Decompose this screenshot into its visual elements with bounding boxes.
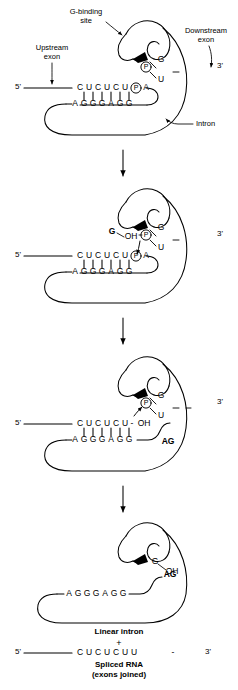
stage-1-base-0: C — [77, 83, 83, 92]
stage-3-base-3: U — [104, 419, 110, 428]
stage-3-pair-2: G — [90, 435, 97, 444]
stage-2-pair-1: G — [81, 267, 88, 276]
stage-1-pair-6: G — [126, 99, 133, 108]
linear-intron-label: Linear intron — [95, 628, 144, 637]
spliced-rna-label: Spliced RNA — [95, 661, 143, 670]
stage-1-base-3: U — [104, 83, 110, 92]
spliced-base-1: U — [86, 648, 92, 657]
spliced-five-prime: 5' — [15, 648, 21, 657]
stage-2-pair-2: G — [90, 267, 97, 276]
stage-3-terminal-oh: OH — [138, 419, 151, 428]
stage-1-base-5: U — [122, 83, 128, 92]
stage-3-pair-6: G — [126, 435, 133, 444]
stage-2-cofactor-g: G — [158, 223, 165, 232]
stage-1-five-prime: 5' — [15, 83, 21, 92]
stage-4-pair-3: G — [93, 589, 100, 598]
downstream-exon-leader — [209, 46, 212, 67]
stage-2-attacking-g: G — [109, 227, 116, 236]
stage-2-base-4: C — [113, 251, 119, 260]
stage-4-pair-5: G — [111, 589, 118, 598]
stage-3-pair-3: G — [99, 435, 106, 444]
spliced-base-2: C — [95, 648, 101, 657]
stage-2-five-prime: 5' — [15, 251, 21, 260]
stage-3-pair-0: A — [72, 435, 78, 444]
stage-4-pair-6: G — [120, 589, 127, 598]
stage-2-base-0: C — [77, 251, 83, 260]
stage-3-base-1: U — [86, 419, 92, 428]
stage-3-base-5: U — [122, 419, 128, 428]
stage-1-pair-4: A — [108, 99, 114, 108]
stage-4-pair-2: G — [84, 589, 91, 598]
downstream-exon-label: Downstream exon — [185, 27, 227, 44]
stage-3-base-2: C — [95, 419, 101, 428]
spliced-dash: - — [172, 648, 175, 657]
stage-3-five-prime: 5' — [15, 419, 21, 428]
stage-4-pair-4: A — [102, 589, 108, 598]
stage-2-base-2: C — [95, 251, 101, 260]
spliced-base-5: U — [122, 648, 128, 657]
stage-1-cofactor-u: U — [158, 75, 164, 84]
g-binding-site-label: G-binding site — [70, 8, 103, 25]
stage-3-base-4: C — [113, 419, 119, 428]
stage-1-three-prime: 3' — [217, 62, 223, 71]
stage-2-pair-6: G — [126, 267, 133, 276]
g-binding-site-leader — [106, 22, 122, 35]
stage-4-pair-0: A — [66, 589, 72, 598]
stage-3-dash: - — [131, 419, 134, 428]
spliced-base-0: C — [77, 648, 83, 657]
stage-1-pair-1: G — [81, 99, 88, 108]
spliced-three-prime: 3' — [205, 648, 211, 657]
exons-joined-label: (exons joined) — [92, 671, 146, 680]
stage-4-cofactor-g: G — [152, 557, 159, 566]
splicing-diagram: G-binding site Upstream exon Downstream … — [0, 0, 238, 690]
stage-3-base-0: C — [77, 419, 83, 428]
stage-4-pair-1: G — [75, 589, 82, 598]
stage-3-three-prime: 3' — [217, 398, 223, 407]
upstream-exon-label: Upstream exon — [36, 44, 69, 61]
stage-2-bound-phosphate: P — [144, 231, 149, 240]
stage-3-pair-4: A — [108, 435, 114, 444]
stage-3-ag-label: AG — [162, 437, 175, 446]
intron-label: Intron — [196, 120, 215, 129]
spliced-base-4: C — [113, 648, 119, 657]
stage-3-cofactor-g: G — [158, 391, 165, 400]
stage-2-base-a: A — [143, 251, 149, 260]
stage-2-pair-5: G — [117, 267, 124, 276]
stage-1-base-1: U — [86, 83, 92, 92]
stage-2-base-3: U — [104, 251, 110, 260]
stage-1-cofactor-phosphate: P — [144, 63, 149, 72]
stage-2-pair-4: A — [108, 267, 114, 276]
stage-1-cofactor-g: G — [158, 55, 165, 64]
stage-3-structure — [24, 357, 191, 471]
stage-1-pair-0: A — [72, 99, 78, 108]
stage-1-phosphate: P — [134, 84, 139, 93]
stage-1-pair-5: G — [117, 99, 124, 108]
stage-2-three-prime: 3' — [217, 230, 223, 239]
stage-1-pair-3: G — [99, 99, 106, 108]
stage-3-pair-1: G — [81, 435, 88, 444]
attack-arrow-stage-3 — [134, 407, 142, 416]
stage-2-pair-3: G — [99, 267, 106, 276]
stage-2-attacking-oh: OH — [125, 232, 138, 241]
stage-1-base-4: C — [113, 83, 119, 92]
stage-4-ag-label: AG — [164, 570, 177, 579]
stage-1-pair-2: G — [90, 99, 97, 108]
stage-3-bound-phosphate: P — [144, 399, 149, 408]
stage-2-base-5: U — [122, 251, 128, 260]
stage-1-base-a: A — [143, 83, 149, 92]
spliced-base-3: U — [104, 648, 110, 657]
stage-1-base-2: C — [95, 83, 101, 92]
stage-3-cofactor-u: U — [158, 411, 164, 420]
spliced-base-6: U — [131, 648, 137, 657]
stage-2-pair-0: A — [72, 267, 78, 276]
stage-2-cofactor-u: U — [158, 243, 164, 252]
stage-3-pair-5: G — [117, 435, 124, 444]
stage-2-base-1: U — [86, 251, 92, 260]
stage-2-phosphate: P — [134, 252, 139, 261]
